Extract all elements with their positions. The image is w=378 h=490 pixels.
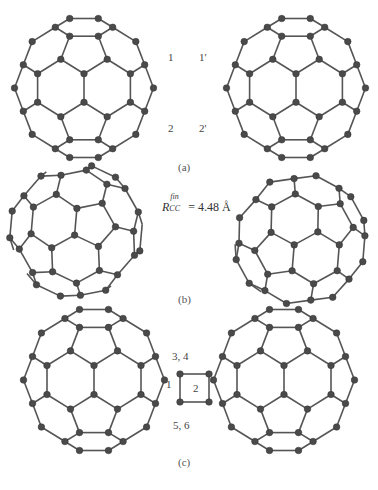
bond xyxy=(47,395,71,410)
carbon-atom xyxy=(30,204,37,211)
bond xyxy=(325,27,348,41)
bond xyxy=(98,36,107,59)
panel-caption-b: (b) xyxy=(178,293,191,305)
carbon-atom xyxy=(66,154,73,161)
carbon-atom xyxy=(81,70,88,77)
carbon-atom xyxy=(29,131,36,138)
carbon-atom xyxy=(316,56,323,63)
carbon-atom xyxy=(112,224,119,231)
bond xyxy=(240,200,256,218)
carbon-atom xyxy=(281,362,288,369)
carbon-atom xyxy=(95,137,102,144)
carbon-atom xyxy=(91,391,98,398)
carbon-atom xyxy=(337,200,344,207)
bond xyxy=(255,232,271,250)
bond xyxy=(140,224,142,251)
carbon-atom xyxy=(141,62,148,69)
carbon-atom xyxy=(102,287,109,294)
bond xyxy=(351,197,364,221)
carbon-atom xyxy=(293,99,300,106)
bond xyxy=(113,27,136,41)
bond xyxy=(250,59,273,73)
carbon-atom xyxy=(307,137,314,144)
carbon-atom xyxy=(315,203,322,210)
c60-left-c xyxy=(20,306,168,454)
bridge-atom xyxy=(206,371,213,378)
panel-caption-a: (a) xyxy=(178,161,190,173)
carbon-atom xyxy=(95,154,102,161)
carbon-atom xyxy=(150,85,157,92)
carbon-atom xyxy=(66,33,73,40)
bond xyxy=(299,327,308,351)
carbon-atom xyxy=(67,348,74,355)
carbon-atom xyxy=(228,424,235,431)
carbon-atom xyxy=(99,200,106,207)
bond xyxy=(316,176,339,189)
atom-label-1-prime: 1' xyxy=(199,51,206,63)
atom-label-2: 2 xyxy=(168,122,174,134)
bond xyxy=(75,235,99,246)
carbon-atom xyxy=(76,447,83,454)
carbon-atom xyxy=(295,306,302,313)
carbon-atom xyxy=(52,145,59,152)
carbon-atom xyxy=(20,377,27,384)
carbon-atom xyxy=(315,229,322,236)
bond xyxy=(310,117,319,140)
carbon-atom xyxy=(44,391,51,398)
carbon-atom xyxy=(49,269,56,276)
bond xyxy=(71,351,95,366)
bond xyxy=(261,327,270,351)
bond xyxy=(296,102,319,116)
carbon-atom xyxy=(308,297,315,304)
carbon-atom xyxy=(360,258,367,265)
bond xyxy=(10,211,12,238)
carbon-atom xyxy=(127,70,134,77)
carbon-atom xyxy=(342,400,349,407)
bond xyxy=(261,409,270,433)
carbon-atom xyxy=(62,438,69,445)
distance-superscript: fin xyxy=(170,192,178,201)
carbon-atom xyxy=(266,429,273,436)
carbon-atom xyxy=(321,145,328,152)
bond xyxy=(271,207,272,233)
carbon-atom xyxy=(38,424,45,431)
carbon-atom xyxy=(219,353,226,360)
bond xyxy=(33,333,42,357)
bond xyxy=(273,36,282,59)
carbon-atom xyxy=(232,108,239,115)
carbon-atom xyxy=(127,99,134,106)
carbon-atom xyxy=(58,113,65,120)
carbon-atom xyxy=(252,315,259,322)
carbon-atom xyxy=(281,391,288,398)
bond xyxy=(52,235,75,248)
carbon-atom xyxy=(29,269,36,276)
distance-subscript: CC xyxy=(169,204,180,213)
carbon-atom xyxy=(66,137,73,144)
bond xyxy=(333,279,349,297)
bond xyxy=(270,179,294,183)
bond xyxy=(261,351,285,366)
carbon-atom xyxy=(289,268,296,275)
bond xyxy=(261,395,285,410)
bond xyxy=(75,208,77,235)
carbon-atom xyxy=(333,330,340,337)
carbon-atom xyxy=(270,56,277,63)
bond xyxy=(71,327,80,351)
carbon-atom xyxy=(328,391,335,398)
bond xyxy=(231,427,255,442)
carbon-atom xyxy=(96,267,103,274)
bond xyxy=(61,102,84,116)
carbon-atom xyxy=(321,24,328,31)
bond xyxy=(107,102,130,116)
carbon-atom xyxy=(313,173,320,180)
bond xyxy=(357,88,366,111)
bond xyxy=(325,134,348,148)
carbon-atom xyxy=(348,193,355,200)
carbon-atom xyxy=(105,324,112,331)
bond xyxy=(136,111,145,134)
bond xyxy=(223,333,232,357)
carbon-atom xyxy=(278,137,285,144)
bridge-atom xyxy=(206,399,213,406)
carbon-atom xyxy=(266,306,273,313)
bond xyxy=(236,260,249,284)
